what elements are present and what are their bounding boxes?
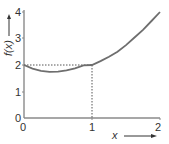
y-tick-1: 1	[15, 86, 21, 98]
y-tick-3: 3	[15, 32, 21, 44]
chart: 4 3 2 1 0 0 1 2 f(x) x	[0, 0, 169, 144]
x-tick-1: 1	[89, 121, 95, 133]
y-tick-2: 2	[15, 59, 21, 71]
y-axis-label: f(x)	[2, 40, 14, 56]
x-arrowhead-icon	[151, 134, 157, 138]
y-tick-4: 4	[15, 6, 21, 18]
function-curve	[24, 12, 160, 72]
x-axis-label: x	[111, 129, 118, 141]
x-tick-2: 2	[155, 121, 161, 133]
x-tick-0: 0	[20, 121, 26, 133]
y-arrowhead-icon	[7, 14, 11, 19]
